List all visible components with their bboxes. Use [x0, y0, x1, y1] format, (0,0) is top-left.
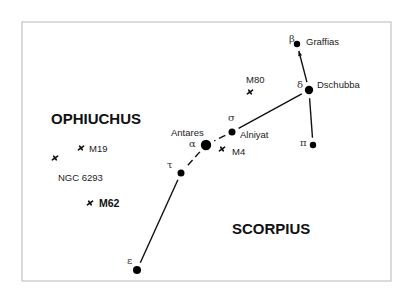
cluster-m4: M4	[218, 145, 245, 157]
globular-cluster-icon	[86, 199, 94, 206]
star-name: Dschubba	[317, 79, 360, 90]
greek-letter: α	[189, 138, 196, 149]
cluster-m62: M62	[86, 197, 119, 209]
star-dot-icon	[201, 140, 211, 150]
star-name: Alniyat	[240, 129, 269, 140]
cluster-m19: M19	[77, 143, 107, 154]
globular-cluster-icon	[218, 145, 226, 152]
line-tau-epsilon	[140, 180, 178, 263]
greek-letter: σ	[228, 112, 235, 123]
globular-cluster-icon	[246, 88, 254, 95]
star-alpha: αAntares	[171, 127, 211, 150]
line-delta-pi	[310, 98, 313, 138]
globular-cluster-icon	[77, 144, 85, 151]
constellation-ophiuchus: OPHIUCHUS	[51, 110, 141, 127]
star-dot-icon	[305, 86, 313, 94]
star-clusters: M80M4M19NGC 6293M62	[51, 74, 264, 209]
line-delta-sigma	[239, 94, 302, 128]
star-dot-icon	[133, 266, 141, 274]
star-epsilon: ε	[127, 255, 141, 274]
star-tau: τ	[167, 159, 185, 177]
star-name: Antares	[171, 127, 204, 138]
greek-letter: π	[300, 137, 307, 148]
cluster-m80: M80	[246, 74, 264, 96]
cluster-label: M4	[232, 146, 245, 157]
cluster-label: M19	[89, 143, 107, 154]
cluster-ngc-6293: NGC 6293	[51, 154, 103, 183]
cluster-label: M80	[246, 74, 264, 85]
star-name: Graffias	[306, 36, 339, 47]
star-sigma: σAlniyat	[228, 112, 269, 140]
star-pi: π	[300, 137, 316, 148]
greek-letter: β	[289, 33, 295, 44]
star-beta: βGraffias	[289, 33, 339, 47]
constellation-scorpius: SCORPIUS	[232, 220, 310, 237]
cluster-label: NGC 6293	[58, 172, 103, 183]
greek-letter: ε	[127, 255, 132, 266]
star-dot-icon	[310, 142, 316, 148]
cluster-label: M62	[99, 197, 120, 209]
arrowhead-icon	[298, 51, 302, 56]
star-dot-icon	[178, 170, 185, 177]
line-sigma-alpha	[214, 135, 225, 141]
globular-cluster-icon	[51, 154, 59, 161]
star-dot-icon	[229, 129, 236, 136]
greek-letter: δ	[297, 79, 303, 90]
chart-frame	[22, 22, 391, 281]
line-alpha-tau	[186, 152, 200, 168]
greek-letter: τ	[167, 159, 173, 170]
scorpius-star-chart: βGraffiasδDschubbaπσAlniyatαAntaresτε M8…	[0, 0, 413, 296]
